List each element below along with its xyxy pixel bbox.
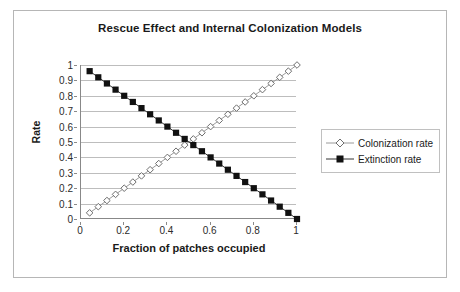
y-axis-tickmark	[74, 219, 77, 220]
y-axis-tick-0.2: 0.2	[59, 183, 73, 194]
x-axis-tick-1: 1	[293, 225, 299, 236]
y-axis-tickmark	[74, 142, 77, 143]
data-point-open-diamond	[190, 136, 197, 143]
data-point-open-diamond	[112, 191, 119, 198]
data-point-filled-square	[104, 80, 110, 86]
data-point-filled-square	[130, 99, 136, 105]
data-point-filled-square	[268, 197, 274, 203]
x-axis-tick-0.4: 0.4	[159, 225, 173, 236]
y-axis-tickmark	[74, 173, 77, 174]
data-point-filled-square	[225, 167, 231, 173]
data-point-filled-square	[259, 191, 265, 197]
data-point-open-diamond	[199, 129, 206, 136]
data-point-open-diamond	[251, 93, 258, 100]
data-point-open-diamond	[130, 179, 137, 186]
data-point-open-diamond	[147, 166, 154, 173]
data-point-open-diamond	[95, 203, 102, 210]
y-axis-tick-0.5: 0.5	[59, 137, 73, 148]
y-axis-tickmark	[74, 96, 77, 97]
y-axis-tickmark	[74, 127, 77, 128]
x-axis-tickmark	[253, 222, 254, 225]
x-axis-tickmark	[296, 222, 297, 225]
x-axis-tick-0.6: 0.6	[203, 225, 217, 236]
data-point-open-diamond	[242, 99, 249, 106]
data-point-open-diamond	[138, 173, 145, 180]
y-axis-tick-0.3: 0.3	[59, 167, 73, 178]
data-point-filled-square	[182, 136, 188, 142]
data-point-filled-square	[285, 210, 291, 216]
y-axis-tickmark	[74, 204, 77, 205]
legend-item-extinction-rate[interactable]: Extinction rate	[325, 151, 435, 167]
data-point-open-diamond	[233, 105, 240, 112]
chart-title: Rescue Effect and Internal Colonization …	[14, 22, 446, 34]
data-point-filled-square	[156, 117, 162, 123]
data-point-filled-square	[199, 148, 205, 154]
data-point-filled-square	[216, 160, 222, 166]
data-point-filled-square	[242, 179, 248, 185]
series-colonization-rate	[86, 62, 300, 216]
data-point-filled-square	[277, 204, 283, 210]
open-diamond-marker-icon	[325, 136, 355, 150]
chart-legend: Colonization rate Extinction rate	[321, 129, 440, 173]
data-point-open-diamond	[276, 74, 283, 81]
x-axis-tickmark	[123, 222, 124, 225]
series-layer	[81, 65, 297, 219]
x-axis-tickmark	[166, 222, 167, 225]
x-axis-tick-0.2: 0.2	[116, 225, 130, 236]
data-point-open-diamond	[268, 80, 275, 87]
data-point-open-diamond	[104, 197, 111, 204]
data-point-open-diamond	[285, 68, 292, 75]
data-point-open-diamond	[225, 111, 232, 118]
plot-area	[80, 65, 296, 219]
y-axis-tick-0.4: 0.4	[59, 152, 73, 163]
legend-item-colonization-rate[interactable]: Colonization rate	[325, 135, 435, 151]
x-axis-tick-0.8: 0.8	[246, 225, 260, 236]
data-point-filled-square	[208, 154, 214, 160]
chart-frame: Rescue Effect and Internal Colonization …	[13, 10, 447, 278]
y-axis-tick-0.7: 0.7	[59, 106, 73, 117]
data-point-filled-square	[173, 130, 179, 136]
legend-label-extinction-rate: Extinction rate	[355, 154, 421, 165]
y-axis-title: Rate	[30, 102, 42, 162]
y-axis-tickmark	[74, 188, 77, 189]
data-point-open-diamond	[294, 62, 301, 69]
x-axis-tickmark	[210, 222, 211, 225]
y-axis-tick-0.1: 0.1	[59, 198, 73, 209]
data-point-open-diamond	[173, 148, 180, 155]
data-point-open-diamond	[259, 86, 266, 93]
legend-label-colonization-rate: Colonization rate	[355, 138, 433, 149]
x-axis-tick-labels: 00.20.40.60.81	[80, 222, 296, 236]
data-point-open-diamond	[155, 160, 162, 167]
y-axis-tick-labels: 00.10.20.30.40.50.60.70.80.91	[44, 65, 77, 219]
data-point-open-diamond	[164, 154, 171, 161]
y-axis-tickmark	[74, 111, 77, 112]
data-point-open-diamond	[121, 185, 128, 192]
data-point-filled-square	[95, 74, 101, 80]
data-point-filled-square	[112, 87, 118, 93]
y-axis-tick-0.9: 0.9	[59, 75, 73, 86]
series-extinction-rate	[87, 68, 301, 222]
data-point-open-diamond	[86, 210, 93, 217]
y-axis-tick-0.8: 0.8	[59, 90, 73, 101]
data-point-open-diamond	[207, 123, 214, 130]
x-axis-title: Fraction of patches occupied	[54, 242, 324, 254]
filled-square-marker-icon	[325, 152, 355, 166]
data-point-filled-square	[251, 185, 257, 191]
data-point-filled-square	[147, 111, 153, 117]
y-axis-tickmark	[74, 157, 77, 158]
data-point-open-diamond	[216, 117, 223, 124]
data-point-filled-square	[121, 93, 127, 99]
data-point-filled-square	[233, 173, 239, 179]
y-axis-tick-1: 1	[67, 60, 73, 71]
data-point-filled-square	[164, 124, 170, 130]
y-axis-tickmark	[74, 65, 77, 66]
data-point-open-diamond	[181, 142, 188, 149]
x-axis-tickmark	[80, 222, 81, 225]
data-point-filled-square	[87, 68, 93, 74]
y-axis-tickmark	[74, 80, 77, 81]
x-axis-tick-0: 0	[77, 225, 83, 236]
y-axis-tick-0.6: 0.6	[59, 121, 73, 132]
data-point-filled-square	[190, 142, 196, 148]
data-point-filled-square	[138, 105, 144, 111]
y-axis-tick-0: 0	[67, 214, 73, 225]
